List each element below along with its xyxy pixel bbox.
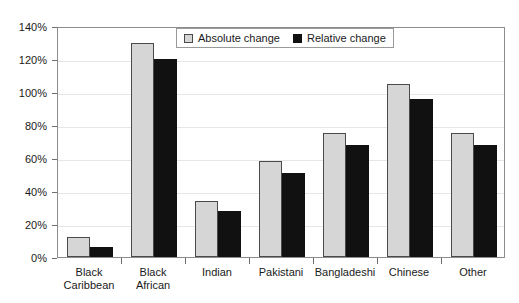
bar-group [122,28,186,257]
x-axis-tick-mark [377,258,378,264]
x-axis-category-label: Pakistani [249,266,313,279]
legend-entry-absolute: Absolute change [184,32,280,44]
x-axis-category-label: Other [441,266,505,279]
legend-label-relative: Relative change [307,32,386,44]
bar-group [186,28,250,257]
y-axis-tick-label: 0% [0,252,47,264]
y-axis-tick-mark [52,159,57,160]
bar [323,133,346,257]
y-axis-tick-label: 20% [0,219,47,231]
legend-label-absolute: Absolute change [198,32,280,44]
y-axis-tick-label: 100% [0,87,47,99]
y-axis-tick-mark [52,60,57,61]
bar-chart: Absolute change Relative change 0%20%40%… [0,0,519,303]
y-axis-tick-mark [52,258,57,259]
bar [451,133,474,257]
bar [195,201,218,257]
bar [387,84,410,257]
x-axis-tick-mark [249,258,250,264]
x-axis-category-label: BlackAfrican [121,266,185,292]
bar [410,99,433,257]
y-axis-tick-mark [52,126,57,127]
y-axis-tick-label: 40% [0,186,47,198]
x-axis-category-label: BlackCaribbean [57,266,121,292]
bar-group [58,28,122,257]
x-axis-tick-mark [121,258,122,264]
y-axis-tick-label: 120% [0,54,47,66]
bar [131,43,154,258]
y-axis-tick-label: 140% [0,21,47,33]
x-axis-category-label: Indian [185,266,249,279]
bar [259,161,282,257]
bar-group [442,28,506,257]
legend-swatch-relative-icon [293,34,302,43]
y-axis-tick-label: 60% [0,153,47,165]
y-axis-tick-mark [52,225,57,226]
y-axis-tick-mark [52,93,57,94]
legend-swatch-absolute-icon [184,34,193,43]
x-axis-category-label: Bangladeshi [313,266,377,279]
bar [90,247,113,257]
bar-group [378,28,442,257]
x-axis-tick-mark [313,258,314,264]
bar [346,145,369,257]
bar-group [250,28,314,257]
x-axis-tick-mark [185,258,186,264]
bar-group [314,28,378,257]
chart-legend: Absolute change Relative change [176,28,394,48]
y-axis-tick-mark [52,27,57,28]
bar [282,173,305,257]
x-axis-category-label: Chinese [377,266,441,279]
x-axis-tick-mark [441,258,442,264]
bar [218,211,241,257]
bar [154,59,177,257]
legend-entry-relative: Relative change [293,32,386,44]
bar [67,237,90,257]
plot-area [57,27,505,258]
y-axis-tick-mark [52,192,57,193]
bar [474,145,497,257]
y-axis-tick-label: 80% [0,120,47,132]
